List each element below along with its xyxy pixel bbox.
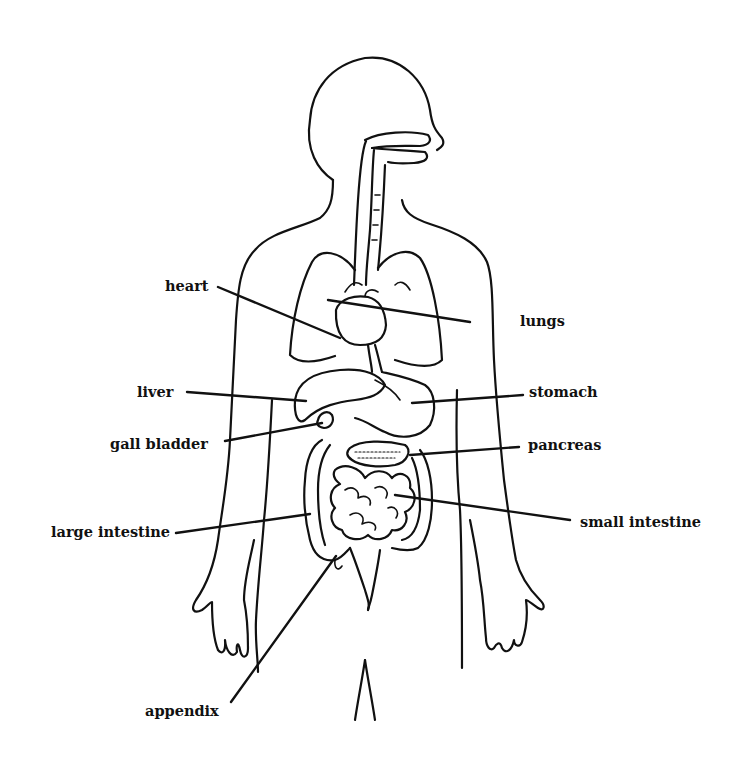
liver-organ	[295, 370, 385, 422]
lungs-leader	[328, 300, 470, 322]
small-intestine-organ	[331, 466, 415, 539]
label-small-intestine: small intestine	[580, 515, 701, 530]
label-large-intestine: large intestine	[51, 525, 170, 540]
liver-leader	[187, 392, 306, 401]
human-anatomy-diagram: heart lungs liver stomach gall bladder p…	[0, 0, 735, 763]
large-intestine-leader	[176, 514, 310, 533]
label-pancreas: pancreas	[528, 438, 601, 453]
label-gall-bladder: gall bladder	[110, 437, 208, 452]
label-heart: heart	[165, 279, 209, 294]
body-outline	[193, 58, 544, 720]
gall-bladder-leader	[225, 423, 322, 441]
small-intestine-leader	[395, 495, 570, 520]
stomach-organ	[355, 372, 434, 437]
gall-bladder-organ	[317, 412, 333, 428]
body-outline-drawing	[0, 0, 735, 763]
pancreas-organ	[347, 442, 408, 467]
stomach-leader	[412, 395, 523, 403]
pancreas-leader	[410, 447, 519, 455]
appendix-organ	[335, 560, 342, 569]
airway	[354, 132, 430, 285]
label-lungs: lungs	[520, 314, 565, 329]
label-liver: liver	[137, 385, 173, 400]
label-stomach: stomach	[529, 385, 598, 400]
label-appendix: appendix	[145, 704, 219, 719]
